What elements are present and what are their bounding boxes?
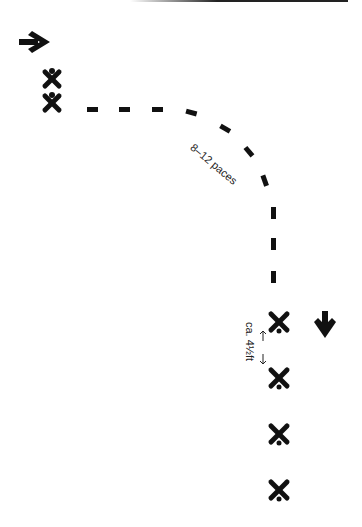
figure-x-end-2 [271,370,287,390]
figure-x-end-4 [271,482,287,502]
figure-x-end-1 [271,314,287,334]
arrow-down-icon [314,311,336,338]
distance-arrows [260,331,266,364]
figure-x-start-1 [45,68,59,86]
figure-x-start-2 [45,92,59,110]
distance-label: ca. 4½ft [244,322,256,361]
dashed-path [87,107,276,283]
diagram-canvas [0,0,362,527]
figure-x-end-3 [271,426,287,446]
arrow-right-icon [19,31,50,53]
